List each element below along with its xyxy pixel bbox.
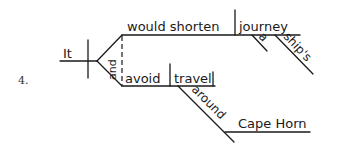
fork-upper [97, 35, 122, 61]
item-number: 4. [18, 74, 29, 87]
subject-word: It [63, 46, 72, 61]
conjunction-word: and [106, 59, 119, 80]
upper-verb: would shorten [127, 19, 219, 34]
lower-object: travel [174, 71, 212, 86]
lower-verb: avoid [125, 71, 160, 86]
sentence-diagram: 4. It and would shorten journey a ship's… [0, 0, 339, 152]
prep-object-word: Cape Horn [238, 116, 307, 131]
